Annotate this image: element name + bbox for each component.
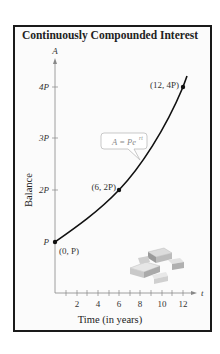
y-axis-var: A [51,46,58,56]
formula-callout: A = Pe rt [101,133,147,160]
formula-text: A = Pe [111,137,136,147]
x-tick-label: 6 [117,299,122,309]
formula-superscript: rt [139,135,143,141]
y-axis-arrow-icon [53,58,57,64]
x-tick-label: 2 [75,299,80,309]
x-axis-arrow-icon [191,291,197,295]
point-label: (6, 2P) [92,182,117,192]
x-axis-title: Time (in years) [78,314,143,326]
gold-bars-illustration [130,248,184,284]
y-tick-label: P [43,237,50,247]
x-tick-label: 4 [96,299,101,309]
exponential-curve [55,76,187,242]
point-label: (12, 4P) [150,80,179,90]
data-point [117,188,121,192]
data-point [53,240,57,244]
y-tick-label: 4P [39,82,50,92]
point-label: (0, P) [59,246,79,256]
y-tick-label: 3P [38,133,50,143]
y-tick-label: 2P [39,185,50,195]
y-axis-title: Balance [23,173,34,207]
chart-plot: A t 2 4 6 8 10 12 P 2P 3P 4P Time (in ye… [0,0,220,354]
x-tick-label: 10 [158,299,168,309]
x-axis-var: t [201,288,204,298]
x-tick-label: 8 [138,299,143,309]
data-point [181,85,185,89]
x-tick-label: 12 [179,299,188,309]
